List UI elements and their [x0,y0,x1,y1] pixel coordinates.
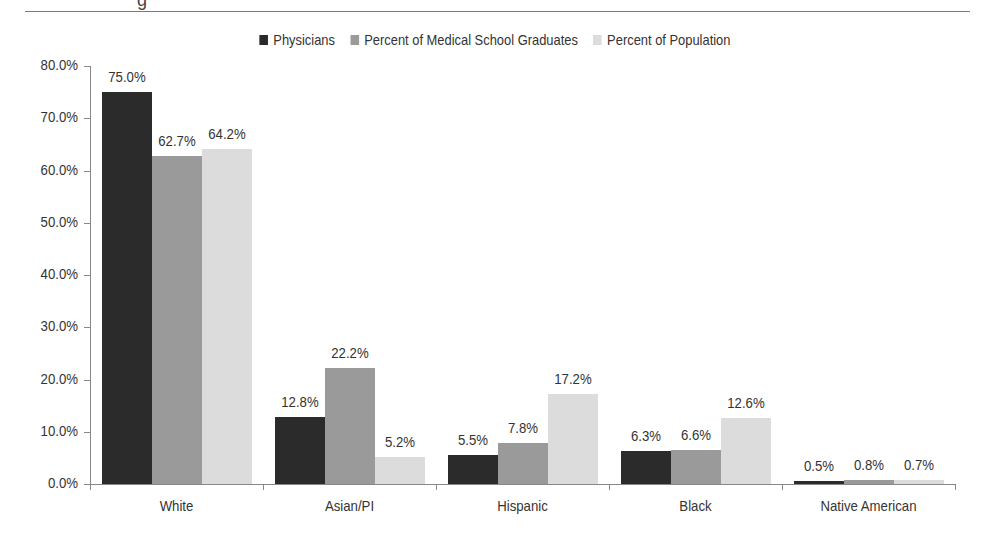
y-tick-label: 40.0% [16,265,78,282]
legend-swatch-icon [593,35,602,45]
y-tick [84,223,90,224]
bar-value-label: 17.2% [542,370,604,387]
bar-black-2 [721,418,771,484]
y-tick [84,118,90,119]
legend-swatch-icon [260,35,269,45]
x-tick [782,484,783,490]
partial-title-text: g [137,0,147,11]
legend-item: Percent of Population [593,31,730,48]
bar-native-american-0 [794,481,844,484]
bar-hispanic-0 [448,455,498,484]
y-tick-label: 20.0% [16,370,78,387]
x-tick [263,484,264,490]
bar-black-1 [671,450,721,484]
bar-value-label: 6.6% [665,426,727,443]
bar-value-label: 7.8% [492,419,554,436]
y-tick-label: 70.0% [16,108,78,125]
bar-hispanic-1 [498,443,548,484]
x-category-label: Native American [792,497,944,514]
y-tick-label: 0.0% [16,474,78,491]
x-category-label: White [100,497,252,514]
legend-label: Percent of Population [607,31,730,48]
y-tick-label: 60.0% [16,161,78,178]
bar-native-american-2 [894,480,944,484]
x-category-label: Black [619,497,771,514]
y-tick [84,380,90,381]
bar-value-label: 5.2% [369,433,431,450]
x-tick [436,484,437,490]
legend-item: Percent of Medical School Graduates [350,31,577,48]
y-tick [84,171,90,172]
x-tick [955,484,956,490]
legend-label: Percent of Medical School Graduates [364,31,578,48]
legend-item: Physicians [260,31,335,48]
y-axis [90,66,91,484]
x-tick [90,484,91,490]
legend: PhysiciansPercent of Medical School Grad… [69,31,920,48]
top-rule [25,11,970,12]
bar-white-1 [152,156,202,484]
y-tick [84,275,90,276]
bar-value-label: 75.0% [96,68,158,85]
bar-value-label: 12.8% [269,393,331,410]
x-tick [609,484,610,490]
bar-white-2 [202,149,252,484]
bar-asian-pi-1 [325,368,375,484]
bar-value-label: 64.2% [196,125,258,142]
y-tick [84,327,90,328]
bar-asian-pi-0 [275,417,325,484]
x-axis [90,484,955,485]
bar-value-label: 22.2% [319,344,381,361]
bar-hispanic-2 [548,394,598,484]
y-tick-label: 80.0% [16,56,78,73]
legend-label: Physicians [273,31,335,48]
bar-value-label: 0.7% [888,456,950,473]
bar-native-american-1 [844,480,894,484]
y-tick [84,432,90,433]
x-category-label: Asian/PI [273,497,425,514]
legend-swatch-icon [350,35,359,45]
y-tick-label: 10.0% [16,422,78,439]
y-tick [84,66,90,67]
bar-black-0 [621,451,671,484]
bar-asian-pi-2 [375,457,425,484]
x-category-label: Hispanic [446,497,598,514]
bar-value-label: 12.6% [715,394,777,411]
y-tick-label: 30.0% [16,317,78,334]
bar-white-0 [102,92,152,484]
y-tick-label: 50.0% [16,213,78,230]
